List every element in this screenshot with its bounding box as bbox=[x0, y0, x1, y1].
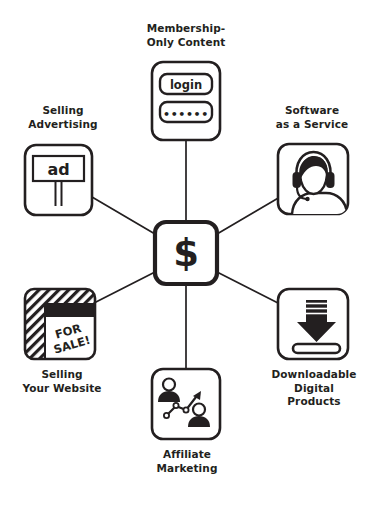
headset-mic-tip bbox=[305, 197, 309, 201]
node-selling-advertising[interactable]: ad bbox=[25, 145, 92, 215]
connector-hub-saas bbox=[217, 197, 280, 234]
revenue-model-diagram: $ login •••••• ad bbox=[0, 0, 372, 506]
headset-earcup-right bbox=[326, 172, 335, 188]
username-value: login bbox=[170, 78, 202, 92]
growth-node-start bbox=[164, 413, 169, 418]
growth-node-mid-1 bbox=[173, 403, 178, 408]
connector-hub-selling-advertising bbox=[92, 197, 155, 234]
password-value: •••••• bbox=[163, 108, 209, 121]
affiliate-box bbox=[152, 369, 220, 439]
node-software-as-a-service[interactable] bbox=[278, 144, 348, 216]
node-downloadable-digital-products[interactable] bbox=[278, 289, 348, 359]
money-hub-node[interactable]: $ bbox=[155, 222, 217, 284]
node-membership-only-content[interactable]: login •••••• bbox=[152, 62, 220, 140]
money-hub-symbol: $ bbox=[173, 232, 199, 275]
for-sale-window-titlebar bbox=[45, 304, 97, 317]
node-affiliate-marketing[interactable] bbox=[152, 369, 220, 439]
connector-hub-selling-website bbox=[94, 272, 155, 303]
node-selling-your-website[interactable]: FOR SALE! bbox=[25, 289, 97, 361]
person-bottom-head bbox=[193, 404, 205, 416]
download-base-bar bbox=[293, 344, 340, 353]
growth-node-mid-2 bbox=[183, 407, 188, 412]
headset-earcup-left bbox=[293, 172, 302, 188]
person-top-head bbox=[163, 379, 175, 391]
connector-hub-download bbox=[217, 272, 278, 303]
billboard-text: ad bbox=[47, 160, 69, 179]
